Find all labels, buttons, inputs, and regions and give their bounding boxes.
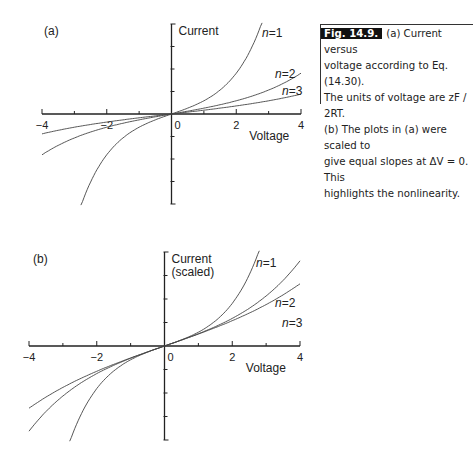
panel-label: (a) bbox=[44, 24, 59, 38]
x-tick-label: −4 bbox=[23, 351, 36, 363]
caption-line-4: (b) The plots in (a) were scaled to bbox=[324, 124, 447, 151]
figure-label: Fig. 14.9. bbox=[321, 28, 382, 39]
panel-b: −4−2024(b)Current(scaled)Voltagen=1n=2n=… bbox=[23, 251, 303, 441]
x-axis-label: Voltage bbox=[246, 361, 286, 375]
series-label: n=2 bbox=[275, 67, 296, 81]
x-tick-label: −2 bbox=[100, 119, 113, 131]
y-axis-label: (scaled) bbox=[172, 265, 215, 279]
caption-line-5: give equal slopes at ΔV = 0. This bbox=[324, 156, 468, 183]
series-label: n=3 bbox=[282, 84, 303, 98]
panel-a: −4−2024(a)CurrentVoltagen=1n=2n=3 bbox=[36, 23, 304, 205]
panel-label: (b) bbox=[33, 252, 48, 266]
x-tick-label: −4 bbox=[36, 119, 49, 131]
caption-line-3: The units of voltage are zF / 2RT. bbox=[324, 92, 466, 119]
x-tick-label: 2 bbox=[233, 119, 239, 131]
x-axis-label: Voltage bbox=[249, 129, 289, 143]
series-label: n=2 bbox=[275, 296, 296, 310]
caption-text: Fig. 14.9.(a) Current versus voltage acc… bbox=[324, 26, 474, 202]
y-axis-label: Current bbox=[172, 252, 213, 266]
x-tick-label: 4 bbox=[298, 119, 304, 131]
x-tick-label: 4 bbox=[297, 351, 303, 363]
series-label: n=3 bbox=[282, 316, 303, 330]
caption-line-6: highlights the nonlinearity. bbox=[324, 188, 460, 199]
x-tick-label: 0 bbox=[167, 351, 173, 363]
series-label: n=1 bbox=[256, 256, 277, 270]
series-label: n=1 bbox=[262, 26, 283, 40]
x-tick-label: −2 bbox=[90, 351, 103, 363]
x-tick-label: 2 bbox=[229, 351, 235, 363]
figure-caption: Fig. 14.9.(a) Current versus voltage acc… bbox=[320, 24, 473, 104]
caption-line-2: voltage according to Eq. (14.30). bbox=[324, 60, 448, 87]
y-axis-label: Current bbox=[179, 24, 220, 38]
x-tick-label: 0 bbox=[174, 119, 180, 131]
